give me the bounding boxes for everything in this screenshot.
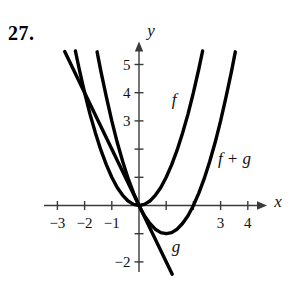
x-axis-arrow-icon	[257, 201, 267, 209]
x-tick-label: 4	[244, 215, 252, 231]
y-tick-label: 5	[123, 57, 131, 73]
chart: −3−2−134543−2 ff + gg x y	[0, 0, 297, 297]
y-tick-label: 3	[123, 113, 131, 129]
curve-label-f: f	[172, 90, 179, 109]
y-tick-label: 4	[123, 85, 131, 101]
x-tick-label: 3	[217, 215, 225, 231]
curve-label-g: g	[172, 237, 181, 256]
x-axis-label: x	[273, 192, 282, 211]
y-axis-arrow-icon	[135, 42, 143, 52]
x-tick-label: −3	[49, 215, 65, 231]
x-tick-label: −1	[104, 215, 120, 231]
y-axis-label: y	[145, 21, 155, 40]
curve-labels: ff + gg	[172, 90, 251, 257]
y-tick-label: −2	[115, 254, 131, 270]
curve-g	[65, 52, 173, 275]
x-tick-label: −2	[77, 215, 93, 231]
textbook-figure: 27. −3−2−134543−2 ff + gg x y	[0, 0, 297, 297]
curve-label-fg: f + g	[218, 149, 251, 168]
curves	[65, 51, 236, 274]
